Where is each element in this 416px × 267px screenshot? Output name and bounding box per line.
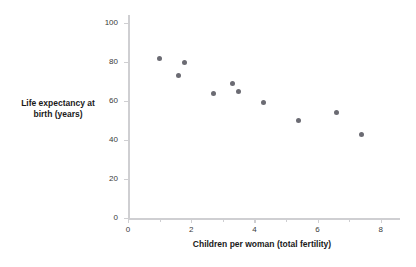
x-tick-label: 2	[181, 225, 201, 234]
y-tick-label: 80	[96, 57, 118, 66]
data-point	[261, 100, 266, 105]
data-point	[176, 73, 181, 78]
data-point	[359, 132, 364, 137]
data-point	[182, 60, 187, 65]
data-point	[296, 118, 301, 123]
y-tick-mark	[124, 23, 128, 24]
data-point	[230, 81, 235, 86]
x-tick-mark	[381, 219, 382, 223]
y-tick-label: 40	[96, 135, 118, 144]
x-tick-label: 6	[308, 225, 328, 234]
y-axis-title-line-1: Life expectancy at	[8, 98, 108, 109]
y-tick-label: 0	[96, 213, 118, 222]
x-tick-label: 4	[244, 225, 264, 234]
x-tick-mark	[254, 219, 255, 223]
y-axis-line	[128, 15, 130, 218]
data-point	[334, 110, 339, 115]
x-minor-tick-mark	[286, 219, 287, 222]
scatter-chart-figure: Life expectancy at birth (years) Childre…	[0, 0, 416, 267]
x-axis-title: Children per woman (total fertility)	[128, 239, 396, 249]
y-tick-label: 60	[96, 96, 118, 105]
x-minor-tick-mark	[223, 219, 224, 222]
x-axis-line	[128, 218, 400, 220]
y-tick-label: 20	[96, 174, 118, 183]
y-tick-label: 100	[96, 18, 118, 27]
data-point	[211, 91, 216, 96]
y-axis-title: Life expectancy at birth (years)	[8, 98, 108, 120]
x-tick-mark	[128, 219, 129, 223]
y-tick-mark	[124, 140, 128, 141]
data-point	[157, 56, 162, 61]
x-minor-tick-mark	[160, 219, 161, 222]
x-tick-mark	[191, 219, 192, 223]
x-tick-label: 0	[118, 225, 138, 234]
x-tick-mark	[318, 219, 319, 223]
data-point	[236, 89, 241, 94]
y-tick-mark	[124, 101, 128, 102]
x-tick-label: 8	[371, 225, 391, 234]
y-tick-mark	[124, 62, 128, 63]
y-axis-title-line-2: birth (years)	[8, 109, 108, 120]
x-minor-tick-mark	[349, 219, 350, 222]
y-tick-mark	[124, 179, 128, 180]
